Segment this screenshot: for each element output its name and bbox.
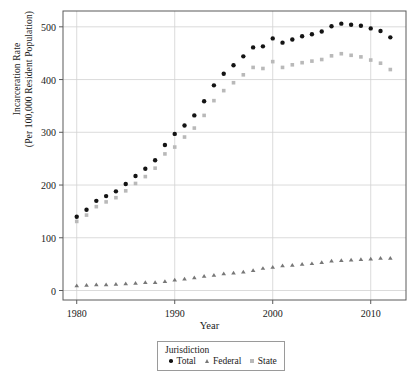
legend-item-federal[interactable]: Federal [205, 356, 242, 366]
data-point-federal [280, 263, 285, 267]
data-point-total [192, 113, 196, 117]
data-point-state [300, 61, 304, 65]
data-point-federal [290, 263, 295, 267]
data-point-federal [378, 256, 383, 260]
data-point-state [359, 55, 363, 59]
data-point-federal [133, 281, 138, 285]
data-point-state [75, 220, 79, 224]
data-point-federal [261, 266, 266, 270]
data-point-total [124, 182, 128, 186]
data-point-federal [153, 280, 158, 284]
data-point-total [261, 44, 265, 48]
data-point-total [359, 24, 363, 28]
x-axis-tick-label: 2010 [361, 308, 381, 319]
data-point-federal [182, 277, 187, 281]
data-point-state [104, 200, 108, 204]
series-state [75, 52, 392, 223]
data-point-state [349, 53, 353, 57]
data-point-federal [123, 281, 128, 285]
data-point-state [369, 58, 373, 62]
data-point-federal [143, 280, 148, 284]
data-point-total [310, 32, 314, 36]
data-point-federal [114, 282, 119, 286]
incarceration-rate-scatter-chart: Incarceration Rate (Per 100,000 Resident… [0, 0, 419, 380]
data-point-total [280, 40, 284, 44]
data-point-federal [319, 260, 324, 264]
data-point-federal [270, 265, 275, 269]
data-point-federal [94, 282, 99, 286]
data-point-state [340, 52, 344, 56]
data-point-state [281, 66, 285, 70]
data-point-state [114, 196, 118, 200]
data-point-total [212, 83, 216, 87]
data-point-federal [172, 278, 177, 282]
data-point-state [212, 99, 216, 103]
data-point-state [173, 145, 177, 149]
x-axis-tick-label: 1990 [165, 308, 185, 319]
data-point-federal [359, 257, 364, 261]
data-point-total [182, 123, 186, 127]
data-point-total [84, 208, 88, 212]
data-point-state [330, 54, 334, 58]
x-axis-title: Year [0, 320, 419, 331]
data-point-total [388, 35, 392, 39]
data-point-state [232, 81, 236, 85]
x-axis-tick-label: 2000 [263, 308, 283, 319]
data-point-total [349, 23, 353, 27]
legend-item-total[interactable]: Total [169, 356, 196, 366]
data-point-federal [192, 276, 197, 280]
data-point-total [231, 63, 235, 67]
data-point-federal [329, 259, 334, 263]
data-point-total [369, 26, 373, 30]
legend-item-state[interactable]: State [250, 356, 276, 366]
legend-item-label: Federal [213, 356, 242, 366]
triangle-icon [205, 359, 209, 363]
data-point-state [124, 189, 128, 193]
data-point-federal [241, 270, 246, 274]
data-point-state [85, 213, 89, 217]
data-point-federal [251, 268, 256, 272]
data-point-state [310, 59, 314, 63]
data-point-state [222, 89, 226, 93]
data-point-total [290, 37, 294, 41]
data-point-federal [339, 258, 344, 262]
data-point-federal [300, 262, 305, 266]
data-point-total [133, 174, 137, 178]
data-point-state [163, 152, 167, 156]
data-point-total [339, 21, 343, 25]
data-point-total [153, 158, 157, 162]
data-point-total [251, 45, 255, 49]
data-point-federal [74, 284, 79, 288]
data-point-federal [84, 283, 89, 287]
series-federal [74, 256, 392, 287]
plot-frame [63, 11, 406, 300]
data-point-total [173, 132, 177, 136]
legend-title: Jurisdiction [165, 345, 277, 355]
data-point-total [329, 24, 333, 28]
data-point-total [104, 194, 108, 198]
data-point-total [378, 29, 382, 33]
data-point-total [241, 54, 245, 58]
data-point-state [389, 68, 393, 72]
data-point-total [300, 34, 304, 38]
data-point-total [320, 29, 324, 33]
x-axis-tick-label: 1980 [67, 308, 87, 319]
data-point-state [134, 182, 138, 186]
data-point-state [379, 61, 383, 65]
data-point-state [95, 205, 99, 209]
legend-item-label: State [258, 356, 277, 366]
legend-item-label: Total [177, 356, 196, 366]
series-total [75, 21, 393, 218]
data-point-state [320, 58, 324, 62]
data-point-federal [163, 279, 168, 283]
data-point-state [261, 67, 265, 71]
data-point-state [202, 114, 206, 118]
data-point-state [193, 126, 197, 130]
data-point-total [202, 99, 206, 103]
data-point-federal [221, 271, 226, 275]
data-point-total [75, 214, 79, 218]
legend-items: TotalFederalState [165, 356, 277, 366]
data-point-federal [202, 274, 207, 278]
data-point-state [271, 60, 275, 64]
data-point-total [94, 199, 98, 203]
